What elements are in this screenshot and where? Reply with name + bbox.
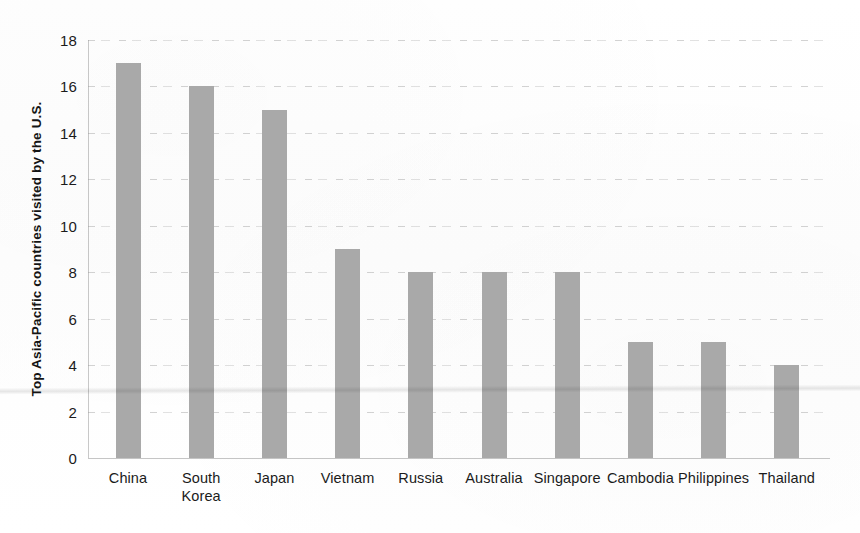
x-axis-tick-label: Australia bbox=[465, 469, 522, 487]
bar bbox=[335, 249, 360, 458]
bar bbox=[189, 86, 214, 458]
bar bbox=[482, 272, 507, 458]
bar bbox=[262, 110, 287, 458]
gridline bbox=[88, 458, 830, 459]
bar bbox=[555, 272, 580, 458]
x-axis-tick-label: Singapore bbox=[534, 469, 601, 487]
bar bbox=[408, 272, 433, 458]
x-axis-tick-label: Russia bbox=[398, 469, 443, 487]
y-axis-tick-label: 18 bbox=[60, 32, 77, 49]
y-axis-tick-label: 14 bbox=[60, 124, 77, 141]
x-axis-tick-label: Vietnam bbox=[321, 469, 375, 487]
bar bbox=[628, 342, 653, 458]
x-axis-tick-label: South Korea bbox=[182, 469, 221, 505]
x-axis-tick-label: China bbox=[109, 469, 147, 487]
x-axis-tick-label: Philippines bbox=[678, 469, 749, 487]
x-axis-tick-label: Japan bbox=[254, 469, 294, 487]
y-axis-title: Top Asia-Pacific countries visited by th… bbox=[26, 40, 46, 458]
y-axis-tick-label: 4 bbox=[68, 357, 77, 374]
bar bbox=[774, 365, 799, 458]
y-axis-tick-label: 2 bbox=[68, 403, 77, 420]
bar bbox=[116, 63, 141, 458]
bar bbox=[701, 342, 726, 458]
y-axis-tick-label: 12 bbox=[60, 171, 77, 188]
bar-chart-figure: Top Asia-Pacific countries visited by th… bbox=[0, 0, 860, 533]
y-axis-tick-label: 8 bbox=[68, 264, 77, 281]
y-axis-tick-label: 0 bbox=[68, 450, 77, 467]
y-axis-tick-label: 16 bbox=[60, 78, 77, 95]
x-axis-tick-label: Thailand bbox=[759, 469, 815, 487]
y-axis-tick-label: 6 bbox=[68, 310, 77, 327]
y-axis-tick-label: 10 bbox=[60, 217, 77, 234]
plot-area: 024681012141618 ChinaSouth KoreaJapanVie… bbox=[88, 40, 830, 458]
x-axis-tick-label: Cambodia bbox=[607, 469, 674, 487]
gridline bbox=[88, 40, 830, 41]
